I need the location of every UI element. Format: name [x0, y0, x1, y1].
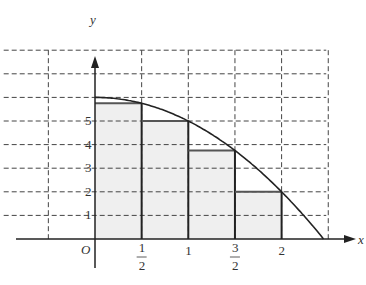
- riemann-sum-chart: yxO12345121322: [0, 0, 366, 285]
- riemann-rectangle: [235, 192, 282, 239]
- x-tick-numerator: 1: [139, 240, 146, 255]
- x-tick-label: 1: [185, 243, 192, 258]
- riemann-rectangle: [142, 121, 189, 239]
- y-tick-label: 3: [85, 160, 92, 175]
- riemann-rectangle: [95, 103, 142, 239]
- y-axis-arrow-icon: [91, 56, 99, 68]
- y-tick-label: 5: [85, 113, 92, 128]
- x-tick-denominator: 2: [139, 258, 146, 273]
- riemann-rectangle: [188, 151, 235, 240]
- y-tick-label: 1: [85, 207, 92, 222]
- x-tick-numerator: 3: [232, 240, 239, 255]
- x-tick-label: 2: [279, 243, 286, 258]
- x-axis-arrow-icon: [344, 235, 356, 243]
- y-axis-label: y: [88, 12, 96, 27]
- x-tick-denominator: 2: [232, 258, 239, 273]
- y-tick-label: 2: [85, 184, 92, 199]
- y-tick-label: 4: [85, 137, 92, 152]
- x-axis-label: x: [357, 232, 364, 247]
- origin-label: O: [81, 242, 91, 257]
